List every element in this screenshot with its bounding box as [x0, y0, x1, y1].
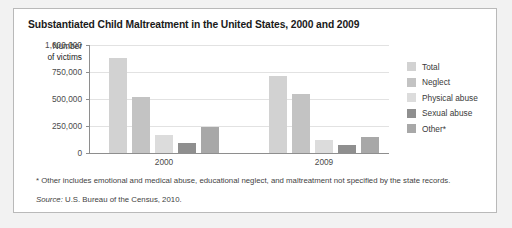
bar: [315, 140, 333, 154]
y-axis-tick-labels: 0250,000500,000750,0001,000,000: [14, 45, 82, 153]
bar: [338, 145, 356, 153]
gridline: [89, 45, 389, 46]
legend-label: Total: [422, 62, 440, 72]
bar: [361, 137, 379, 153]
bar: [292, 94, 310, 153]
y-axis-tick: [86, 126, 89, 127]
legend-label: Sexual abuse: [422, 108, 472, 118]
legend-item: Neglect: [407, 75, 493, 91]
y-axis-tick: [86, 153, 89, 154]
bar: [132, 97, 150, 153]
source-note: Source: U.S. Bureau of the Census, 2010.: [36, 195, 182, 204]
y-axis-tick: [86, 99, 89, 100]
gridline: [89, 72, 389, 73]
chart-legend: TotalNeglectPhysical abuseSexual abuseOt…: [407, 59, 493, 137]
y-axis-tick-label: 750,000: [52, 67, 82, 77]
bar: [109, 58, 127, 153]
x-axis-tick-label: 2000: [155, 157, 173, 167]
y-axis-tick-label: 0: [77, 148, 82, 158]
legend-swatch: [407, 124, 416, 133]
bar: [201, 127, 219, 153]
bar: [178, 143, 196, 153]
source-value: U.S. Bureau of the Census, 2010.: [63, 195, 182, 204]
chart-figure: Substantiated Child Maltreatment in the …: [13, 8, 497, 213]
chart-title: Substantiated Child Maltreatment in the …: [28, 19, 359, 30]
legend-label: Physical abuse: [422, 93, 478, 103]
bar: [155, 135, 173, 153]
bar: [269, 76, 287, 153]
legend-item: Sexual abuse: [407, 106, 493, 122]
legend-swatch: [407, 78, 416, 87]
y-axis-line: [89, 45, 90, 153]
y-axis-tick: [86, 45, 89, 46]
source-label: Source:: [36, 195, 63, 204]
y-axis-tick-label: 500,000: [52, 94, 82, 104]
legend-swatch: [407, 109, 416, 118]
y-axis-tick-label: 250,000: [52, 121, 82, 131]
legend-label: Other*: [422, 124, 446, 134]
y-axis-tick: [86, 72, 89, 73]
legend-item: Physical abuse: [407, 90, 493, 106]
legend-label: Neglect: [422, 77, 450, 87]
legend-item: Total: [407, 59, 493, 75]
y-axis-tick-label: 1,000,000: [45, 40, 82, 50]
x-axis-line: [89, 153, 389, 154]
legend-swatch: [407, 93, 416, 102]
x-axis-tick-label: 2009: [315, 157, 333, 167]
legend-item: Other*: [407, 121, 493, 137]
footnote: * Other includes emotional and medical a…: [36, 176, 450, 185]
legend-swatch: [407, 62, 416, 71]
plot-area: 20002009: [89, 45, 389, 153]
